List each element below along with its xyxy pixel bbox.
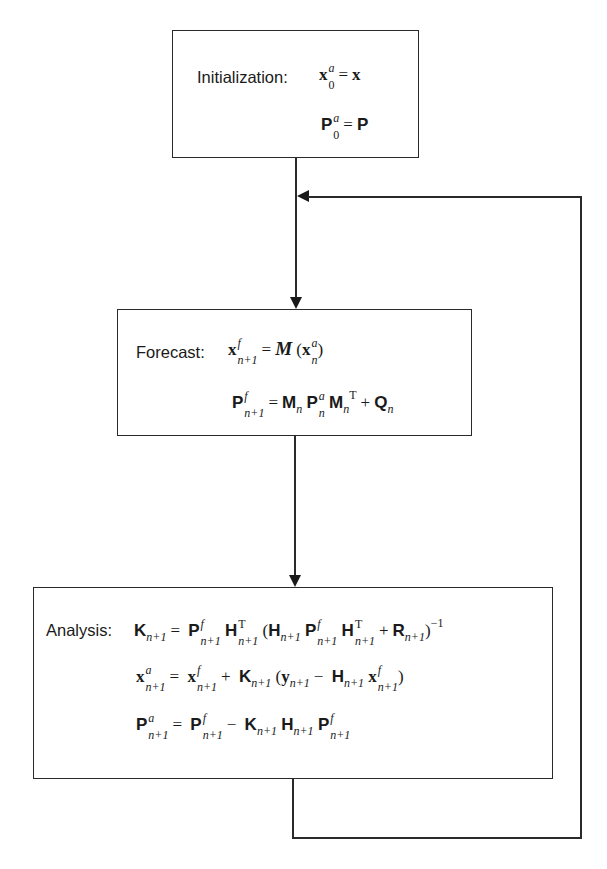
feedback-down-segment (292, 779, 294, 838)
connector-init-forecast (295, 158, 297, 298)
analysis-box: Analysis: Kn+1= Pfn+1 HTn+1 (Hn+1 Pfn+1 … (33, 587, 553, 779)
forecast-label: Forecast: (136, 343, 205, 362)
feedback-bottom-segment (292, 837, 582, 839)
forecast-covariance-equation: Pfn+1=Mn Pan MnT+Qn (232, 388, 393, 417)
analysis-state-equation: xan+1= xfn+1+ Kn+1 (yn+1− Hn+1 xfn+1) (136, 666, 404, 691)
initialization-box: Initialization: xa0=x Pa0=P (172, 30, 419, 158)
arrow-down-icon (290, 297, 302, 309)
arrow-down-icon (289, 575, 301, 587)
feedback-right-segment (580, 196, 582, 839)
forecast-state-equation: xfn+1=M (xan) (228, 338, 323, 363)
connector-forecast-analysis (294, 436, 296, 576)
analysis-label: Analysis: (46, 621, 112, 640)
init-state-equation: xa0=x (319, 64, 361, 88)
forecast-box: Forecast: xfn+1=M (xan) Pfn+1=Mn Pan MnT… (117, 309, 472, 436)
kalman-gain-equation: Kn+1= Pfn+1 HTn+1 (Hn+1 Pfn+1 HTn+1+Rn+1… (134, 616, 443, 645)
analysis-covariance-equation: Pan+1= Pfn+1− Kn+1 Hn+1 Pfn+1 (136, 714, 350, 739)
init-covariance-equation: Pa0=P (321, 114, 368, 138)
initialization-label: Initialization: (197, 68, 288, 87)
feedback-top-segment (308, 196, 582, 198)
